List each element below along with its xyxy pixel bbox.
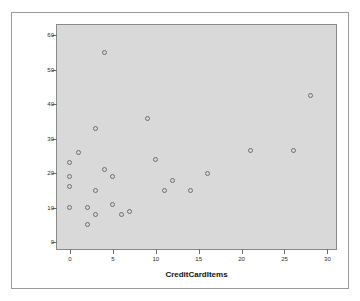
x-tick-label: 20 xyxy=(238,256,245,262)
y-tick-label: 60 xyxy=(47,32,54,38)
x-axis-title: CreditCardItems xyxy=(56,271,337,279)
x-tick-label: 25 xyxy=(281,256,288,262)
x-tick-mark xyxy=(242,249,243,254)
y-tick-label: 50 xyxy=(47,67,54,73)
x-tick-label: 0 xyxy=(68,256,71,262)
plot-area: 0102030405060 051015202530 xyxy=(56,24,337,250)
y-tick-label: 30 xyxy=(47,136,54,142)
y-tick-label: 20 xyxy=(47,170,54,176)
y-axis-ticks: 0102030405060 xyxy=(57,25,336,249)
x-tick-label: 10 xyxy=(152,256,159,262)
x-tick-mark xyxy=(156,249,157,254)
x-tick-mark xyxy=(113,249,114,254)
scatter-plot-figure: 0102030405060 051015202530 CreditCardIte… xyxy=(0,0,360,301)
x-tick-label: 30 xyxy=(324,256,331,262)
x-tick-mark xyxy=(284,249,285,254)
x-tick-label: 5 xyxy=(111,256,114,262)
x-tick-mark xyxy=(327,249,328,254)
x-tick-label: 15 xyxy=(195,256,202,262)
y-tick-label: 0 xyxy=(51,239,54,245)
y-tick-label: 40 xyxy=(47,101,54,107)
x-tick-mark xyxy=(70,249,71,254)
y-tick-label: 10 xyxy=(47,205,54,211)
x-tick-mark xyxy=(199,249,200,254)
